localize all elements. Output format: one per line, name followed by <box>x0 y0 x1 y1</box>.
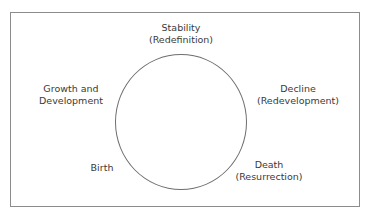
label-stability: Stability (Redefinition) <box>149 22 213 46</box>
label-birth-line1: Birth <box>91 162 114 174</box>
label-growth-line2: Development <box>39 95 103 107</box>
label-decline-line1: Decline <box>257 83 339 95</box>
label-stability-line1: Stability <box>149 22 213 34</box>
label-death-line1: Death <box>235 159 302 171</box>
label-growth: Growth and Development <box>39 83 103 107</box>
label-decline-line2: (Redevelopment) <box>257 95 339 107</box>
label-decline: Decline (Redevelopment) <box>257 83 339 107</box>
label-stability-line2: (Redefinition) <box>149 34 213 46</box>
label-growth-line1: Growth and <box>39 83 103 95</box>
label-birth: Birth <box>91 162 114 174</box>
label-death: Death (Resurrection) <box>235 159 302 183</box>
label-death-line2: (Resurrection) <box>235 171 302 183</box>
lifecycle-circle <box>115 54 247 190</box>
